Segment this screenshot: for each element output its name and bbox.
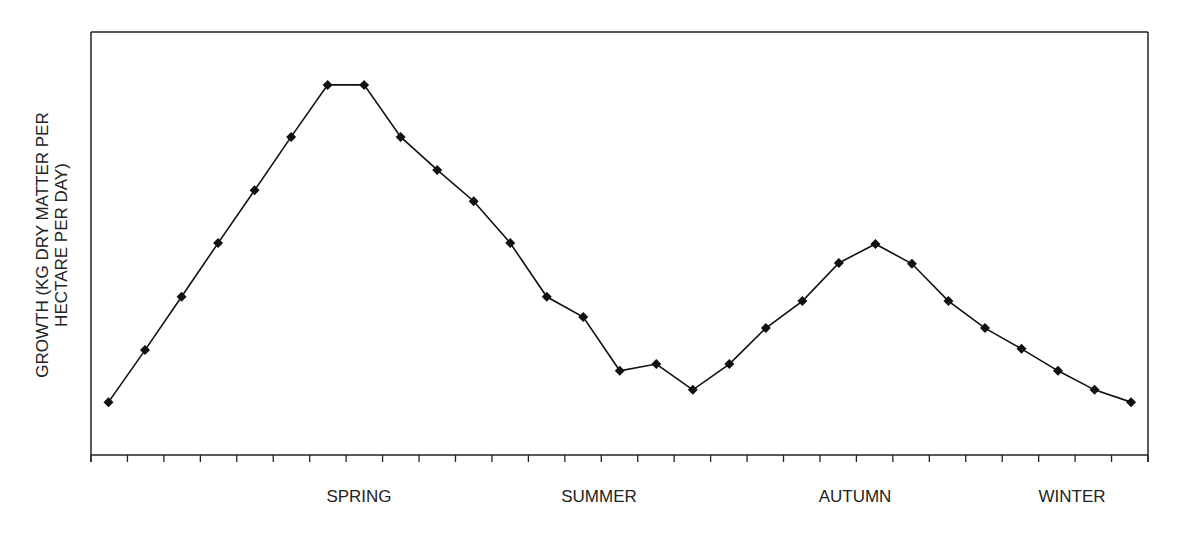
y-axis-label-line-1: GROWTH (KG DRY MATTER PER: [33, 112, 52, 377]
data-point-marker: [286, 132, 296, 142]
data-point-marker: [1017, 344, 1027, 354]
x-axis-ticks: [91, 455, 1148, 462]
data-point-marker: [359, 80, 369, 90]
data-point-marker: [1053, 366, 1063, 376]
series-markers: [104, 80, 1137, 407]
season-label-winter: WINTER: [1038, 487, 1105, 507]
data-point-marker: [177, 292, 187, 302]
season-label-summer: SUMMER: [561, 487, 637, 507]
data-point-marker: [615, 366, 625, 376]
data-point-marker: [1126, 397, 1136, 407]
data-point-marker: [578, 312, 588, 322]
data-point-marker: [542, 292, 552, 302]
data-point-marker: [870, 239, 880, 249]
series-line: [109, 85, 1132, 402]
data-point-marker: [1090, 385, 1100, 395]
data-point-marker: [688, 385, 698, 395]
line-chart: [0, 0, 1178, 539]
data-point-marker: [104, 397, 114, 407]
data-point-marker: [213, 238, 223, 248]
data-point-marker: [140, 345, 150, 355]
data-point-marker: [651, 359, 661, 369]
plot-frame: [91, 32, 1148, 462]
y-axis-label-line-2: HECTARE PER DAY): [52, 112, 71, 377]
data-point-marker: [323, 80, 333, 90]
season-label-autumn: AUTUMN: [819, 487, 892, 507]
season-label-spring: SPRING: [326, 487, 391, 507]
data-point-marker: [250, 185, 260, 195]
